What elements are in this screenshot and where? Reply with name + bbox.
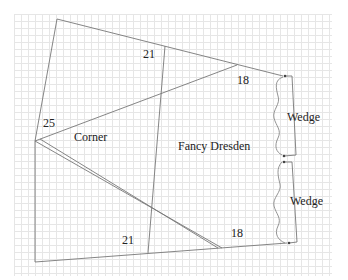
label-angle-top-right: 18: [237, 73, 249, 87]
wedge-bottom-scalloped-edge: [274, 162, 285, 243]
diagram-canvas: 21 21 18 18 25 Corner Fancy Dresden Wedg…: [0, 0, 348, 280]
label-angle-bottom-right: 18: [231, 226, 243, 240]
wedge-top-end-dot: [283, 155, 286, 158]
wedge-bottom-start-dot: [283, 161, 286, 164]
wedge-top-scalloped-edge: [274, 77, 283, 155]
bottom-edge: [35, 243, 287, 262]
label-corner: Corner: [74, 130, 107, 144]
diagonal-seam-upper: [35, 141, 222, 248]
label-wedge-top: Wedge: [287, 110, 320, 124]
label-angle-left: 25: [43, 116, 55, 130]
corner-seam: [35, 65, 237, 141]
label-wedge-bottom: Wedge: [290, 194, 323, 208]
label-angle-top: 21: [143, 47, 155, 61]
wedge-top-start-dot: [284, 75, 287, 78]
diagonal-seam-lower: [40, 139, 218, 248]
top-edge: [57, 19, 283, 76]
label-fancy-dresden: Fancy Dresden: [178, 139, 250, 153]
wedge-bottom-end-dot: [288, 242, 291, 245]
label-angle-bottom: 21: [122, 233, 134, 247]
vertical-seam: [148, 46, 165, 253]
